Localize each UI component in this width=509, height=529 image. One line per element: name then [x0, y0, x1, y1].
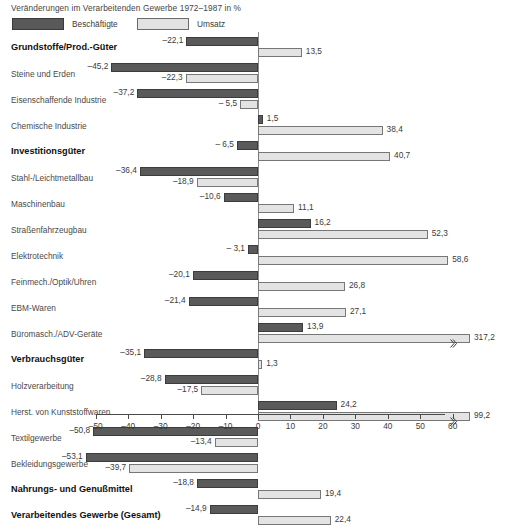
value-label: – 5,5 [219, 99, 237, 108]
bar-umsatz [258, 230, 428, 239]
value-label: 16,2 [315, 218, 331, 227]
axis-tick [323, 414, 324, 419]
chart-row: EBM-Waren–21,427,1 [0, 296, 509, 322]
value-label: –21,4 [165, 296, 186, 305]
axis-tick-label: 20 [318, 421, 327, 431]
bar-umsatz [258, 516, 331, 525]
bar-beschaeftigte [140, 167, 258, 176]
category-label: Nahrungs- und Genußmittel [11, 484, 132, 494]
bar-umsatz [258, 204, 294, 213]
axis-tick-label: 60 [448, 421, 457, 431]
bar-beschaeftigte [111, 63, 258, 72]
value-label: – 3,1 [226, 244, 244, 253]
axis-tick-label: –10 [219, 421, 233, 431]
axis-break-icon [448, 334, 457, 343]
category-label: Feinmech./Optik/Uhren [11, 277, 96, 287]
value-label: 40,7 [394, 151, 410, 160]
value-label: 317,2 [474, 333, 495, 342]
value-label: 1,3 [266, 359, 278, 368]
chart-row: Chemische Industrie1,538,4 [0, 114, 509, 140]
bar-beschaeftigte [197, 479, 258, 488]
category-label: Straßenfahrzeugbau [11, 225, 87, 235]
axis-tick [453, 414, 454, 419]
chart-row: Verarbeitendes Gewerbe (Gesamt)–14,922,4 [0, 504, 509, 529]
value-label: –28,8 [141, 374, 162, 383]
chart-row: Stahl-/Leichtmetallbau–36,4–18,9 [0, 166, 509, 192]
bar-umsatz [258, 308, 346, 317]
value-label: –39,7 [105, 463, 126, 472]
value-label: 11,1 [298, 203, 314, 212]
bar-umsatz [186, 74, 258, 83]
value-label: –36,4 [116, 166, 137, 175]
axis-tick [388, 414, 389, 419]
axis-tick-label: 40 [383, 421, 392, 431]
value-label: 26,8 [349, 281, 365, 290]
bar-beschaeftigte [193, 271, 258, 280]
bar-umsatz [129, 464, 258, 473]
chart-row: Eisenschaffende Industrie–37,2– 5,5 [0, 88, 509, 114]
value-label: –22,1 [163, 36, 184, 45]
legend-swatch-umsatz [137, 18, 189, 30]
axis-tick [420, 414, 421, 419]
value-label: 13,9 [307, 322, 323, 331]
category-label: Eisenschaffende Industrie [11, 95, 106, 105]
bar-beschaeftigte [258, 323, 303, 332]
axis-tick [226, 414, 227, 419]
legend-swatch-beschaeftigte [12, 18, 64, 30]
category-label: Steine und Erden [11, 69, 75, 79]
axis-tick-label: –20 [186, 421, 200, 431]
category-label: Elektrotechnik [11, 251, 63, 261]
category-label: Maschinenbau [11, 199, 65, 209]
bar-umsatz [197, 178, 258, 187]
value-label: 27,1 [350, 307, 366, 316]
value-label: –18,8 [173, 478, 194, 487]
value-label: 52,3 [432, 229, 448, 238]
axis-tick-label: 30 [351, 421, 360, 431]
axis-tick-label: –30 [154, 421, 168, 431]
category-label: Chemische Industrie [11, 121, 87, 131]
bar-umsatz [258, 282, 345, 291]
value-label: 1,5 [267, 114, 279, 123]
value-label: –22,3 [162, 73, 183, 82]
bar-beschaeftigte [224, 193, 258, 202]
bar-umsatz [258, 256, 448, 265]
value-label: 58,6 [452, 255, 468, 264]
chart-row: Steine und Erden–45,2–22,3 [0, 62, 509, 88]
axis-tick [161, 414, 162, 419]
axis-tick-label: –40 [121, 421, 135, 431]
value-label: –17,5 [177, 385, 198, 394]
chart-row: Verbrauchsgüter–35,11,3 [0, 348, 509, 374]
axis-tick [258, 414, 259, 419]
value-label: –10,6 [200, 192, 221, 201]
category-label: Investitionsgüter [11, 146, 85, 156]
value-label: – 6,5 [215, 140, 233, 149]
axis-tick-label: 10 [286, 421, 295, 431]
chart-row: Maschinenbau–10,611,1 [0, 192, 509, 218]
bar-umsatz [258, 48, 302, 57]
axis-tick [355, 414, 356, 419]
value-label: 19,4 [325, 489, 341, 498]
bar-umsatz [201, 386, 258, 395]
category-label: Holzverarbeitung [11, 381, 74, 391]
bar-beschaeftigte [258, 401, 337, 410]
axis-tick [290, 414, 291, 419]
value-label: 38,4 [387, 125, 403, 134]
value-label: 24,2 [341, 400, 357, 409]
category-label: Verarbeitendes Gewerbe (Gesamt) [11, 510, 161, 520]
chart-row: Investitionsgüter– 6,540,7 [0, 140, 509, 166]
value-label: –14,9 [186, 504, 207, 513]
bar-umsatz [258, 490, 321, 499]
chart-row: Nahrungs- und Genußmittel–18,819,4 [0, 478, 509, 504]
bar-beschaeftigte [237, 141, 258, 150]
value-label: 13,5 [306, 47, 322, 56]
category-label: Stahl-/Leichtmetallbau [11, 173, 93, 183]
chart-row: Bekleidungsgewerbe–53,1–39,7 [0, 452, 509, 478]
value-label: –37,2 [114, 88, 135, 97]
chart-row: Elektrotechnik– 3,158,6 [0, 244, 509, 270]
chart-row: Grundstoffe/Prod.-Güter–22,113,5 [0, 36, 509, 62]
category-label: Verbrauchsgüter [11, 354, 84, 364]
category-label: Büromasch./ADV-Geräte [11, 329, 102, 339]
bar-beschaeftigte [137, 89, 258, 98]
bar-beschaeftigte [189, 297, 258, 306]
